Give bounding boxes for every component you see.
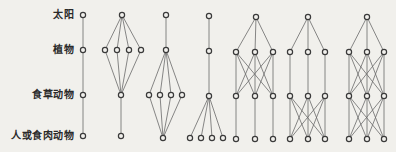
- node-circle: [287, 93, 292, 98]
- node-circle: [364, 49, 369, 54]
- node-circle: [287, 136, 292, 141]
- edge-line: [256, 17, 273, 52]
- node-circle: [270, 136, 275, 141]
- network-edges-web-herbivore-carnivore-crossed: [290, 17, 325, 139]
- node-circle: [160, 135, 165, 140]
- edge-line: [149, 50, 166, 95]
- node-circle: [252, 136, 257, 141]
- node-circle: [163, 12, 168, 17]
- network-nodes-one-plant-four-herbivores: [146, 12, 184, 140]
- network-nodes-one-herbivore-four-carnivores: [187, 13, 225, 140]
- node-circle: [179, 92, 184, 97]
- network-edges-one-plant-four-herbivores: [149, 15, 182, 138]
- node-circle: [346, 49, 351, 54]
- node-circle: [209, 135, 214, 140]
- network-edges-one-herbivore-four-carnivores: [190, 16, 223, 138]
- node-circle: [80, 133, 85, 138]
- node-circle: [270, 93, 275, 98]
- node-circle: [168, 92, 173, 97]
- edge-line: [349, 17, 367, 52]
- node-circle: [305, 136, 310, 141]
- node-circle: [270, 49, 275, 54]
- node-circle: [126, 47, 131, 52]
- node-circle: [206, 13, 211, 18]
- node-circle: [157, 92, 162, 97]
- edge-line: [160, 50, 166, 95]
- edge-line: [290, 17, 308, 52]
- nodes-layer: [80, 12, 386, 141]
- edge-line: [308, 17, 325, 52]
- node-circle: [119, 12, 124, 17]
- node-circle: [146, 92, 151, 97]
- node-circle: [80, 12, 85, 17]
- node-circle: [233, 136, 238, 141]
- network-edges-four-plants-one-herbivore: [105, 15, 141, 136]
- network-nodes-web-plant-herbivore-crossed: [233, 14, 275, 141]
- edge-line: [160, 95, 163, 138]
- node-circle: [220, 135, 225, 140]
- node-circle: [206, 48, 211, 53]
- node-circle: [233, 49, 238, 54]
- node-circle: [118, 133, 123, 138]
- node-circle: [163, 47, 168, 52]
- node-circle: [381, 136, 386, 141]
- node-circle: [322, 93, 327, 98]
- node-circle: [305, 93, 310, 98]
- node-circle: [206, 93, 211, 98]
- node-circle: [114, 47, 119, 52]
- network-edges-web-fully-crossed: [349, 17, 384, 139]
- edge-line: [121, 50, 141, 95]
- node-circle: [102, 47, 107, 52]
- node-circle: [287, 49, 292, 54]
- node-circle: [233, 93, 238, 98]
- node-circle: [305, 14, 310, 19]
- node-circle: [252, 93, 257, 98]
- edges-layer: [83, 15, 384, 139]
- network-nodes-four-plants-one-herbivore: [102, 12, 143, 138]
- edge-line: [149, 95, 163, 138]
- node-circle: [364, 136, 369, 141]
- edge-line: [190, 96, 209, 138]
- food-web-diagram: [0, 0, 396, 152]
- network-nodes-web-fully-crossed: [346, 14, 386, 141]
- edge-line: [121, 50, 129, 95]
- node-circle: [322, 49, 327, 54]
- node-circle: [198, 135, 203, 140]
- edge-line: [163, 95, 171, 138]
- edge-line: [201, 96, 209, 138]
- node-circle: [346, 136, 351, 141]
- node-circle: [346, 93, 351, 98]
- node-circle: [80, 92, 85, 97]
- node-circle: [381, 93, 386, 98]
- network-edges-web-plant-herbivore-crossed: [236, 17, 273, 139]
- edge-line: [236, 17, 256, 52]
- node-circle: [364, 93, 369, 98]
- edge-line: [122, 15, 129, 50]
- node-circle: [118, 92, 123, 97]
- network-nodes-web-herbivore-carnivore-crossed: [287, 14, 327, 141]
- node-circle: [253, 14, 258, 19]
- edge-line: [209, 96, 212, 138]
- node-circle: [322, 136, 327, 141]
- node-circle: [187, 135, 192, 140]
- edge-line: [209, 96, 223, 138]
- edge-line: [122, 15, 141, 50]
- edge-line: [367, 17, 384, 52]
- node-circle: [80, 47, 85, 52]
- node-circle: [252, 49, 257, 54]
- node-circle: [364, 14, 369, 19]
- edge-line: [255, 17, 256, 52]
- node-circle: [381, 49, 386, 54]
- node-circle: [138, 47, 143, 52]
- edge-line: [163, 95, 182, 138]
- node-circle: [305, 49, 310, 54]
